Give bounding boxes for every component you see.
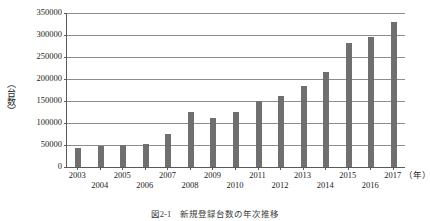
x-axis-tick-mark <box>190 167 191 170</box>
x-axis-tick-mark <box>370 167 371 170</box>
y-axis-tick-label: 100000 <box>16 118 62 127</box>
bar <box>233 112 239 167</box>
x-axis-tick-label: 2014 <box>310 181 340 190</box>
bar <box>188 112 194 167</box>
bar <box>165 134 171 167</box>
y-axis-tick-label-group: 0500001000001500002000002500003000003500… <box>14 0 62 221</box>
x-axis-tick-label: 2015 <box>333 171 363 180</box>
bar <box>391 22 397 167</box>
x-axis-tick-label: 2009 <box>197 171 227 180</box>
bar <box>75 148 81 167</box>
x-axis-tick-label: 2007 <box>152 171 182 180</box>
x-axis-tick-label: 2011 <box>243 171 273 180</box>
bar <box>346 43 352 167</box>
x-axis-tick-mark <box>325 167 326 170</box>
x-axis-tick-label: 2012 <box>265 181 295 190</box>
bar <box>210 118 216 167</box>
x-axis-tick-label: 2004 <box>85 181 115 190</box>
y-axis-tick-label: 350000 <box>16 8 62 17</box>
bar <box>120 145 126 167</box>
bar <box>301 86 307 167</box>
bar <box>368 37 374 167</box>
x-axis-tick-mark <box>235 167 236 170</box>
y-axis-tick-label: 50000 <box>16 140 62 149</box>
x-axis-tick-label: 2005 <box>107 171 137 180</box>
x-axis: 2003200420052006200720082009201020112012… <box>66 167 404 207</box>
x-axis-tick-mark <box>145 167 146 170</box>
y-axis-tick-label: 150000 <box>16 96 62 105</box>
bar <box>278 96 284 167</box>
x-axis-tick-label: 2016 <box>355 181 385 190</box>
x-axis-tick-mark <box>100 167 101 170</box>
y-axis-tick-label: 300000 <box>16 30 62 39</box>
y-axis-tick-label: 0 <box>16 162 62 171</box>
y-axis-tick-label: 200000 <box>16 74 62 83</box>
y-axis-tick-label: 250000 <box>16 52 62 61</box>
x-axis-unit-label: （年） <box>404 171 430 180</box>
x-axis-tick-label: 2013 <box>288 171 318 180</box>
bar <box>98 146 104 167</box>
x-axis-tick-label: 2008 <box>175 181 205 190</box>
x-axis-tick-label: 2003 <box>62 171 92 180</box>
x-axis-tick-mark <box>280 167 281 170</box>
bar-chart-figure: （台数） 05000010000015000020000025000030000… <box>0 0 430 221</box>
bar-series <box>67 13 405 167</box>
bar <box>256 101 262 167</box>
figure-caption: 図2-1 新規登録台数の年次推移 <box>0 209 430 221</box>
bar <box>143 144 149 167</box>
x-axis-tick-label: 2006 <box>130 181 160 190</box>
bar <box>323 72 329 167</box>
plot-area <box>66 13 405 168</box>
x-axis-tick-label: 2010 <box>220 181 250 190</box>
